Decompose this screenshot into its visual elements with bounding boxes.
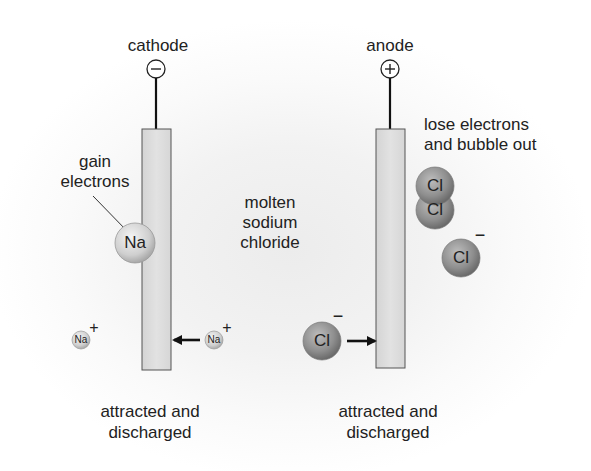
na-ion-far-left-charge: + [88,318,100,338]
cathode-label: cathode [118,36,198,56]
electrolyte-line2: sodium [220,213,320,233]
electrolyte-line1: molten [220,193,320,213]
cl-ion-moving-symbol: Cl [302,331,342,351]
anode-electrode [376,129,405,368]
lose-electrons-line1: lose electrons [424,115,529,135]
cl2-bottom-symbol: Cl [415,200,455,220]
na-atom-symbol: Na [115,233,155,253]
anode-label: anode [358,36,422,56]
electrolysis-diagram: cathode anode gain electrons lose electr… [0,0,591,471]
cathode-note-line2: discharged [80,423,220,443]
electrolyte-line3: chloride [220,233,320,253]
cl2-top-symbol: Cl [415,176,455,196]
anode-note-line1: attracted and [318,402,458,422]
lose-electrons-line2: and bubble out [424,135,537,155]
gain-electrons-line2: electrons [50,172,140,192]
cl-ion-moving-charge: − [330,306,346,326]
cathode-note-line1: attracted and [80,402,220,422]
cl-ion-free-charge: − [472,225,488,245]
cathode-terminal [147,60,165,129]
annotation-pointer-line [93,196,128,232]
anode-terminal [381,60,399,129]
gain-electrons-line1: gain [50,152,140,172]
anode-note-line2: discharged [318,423,458,443]
cl-ion-free-symbol: Cl [441,248,481,268]
na-ion-moving-charge: + [221,318,233,338]
